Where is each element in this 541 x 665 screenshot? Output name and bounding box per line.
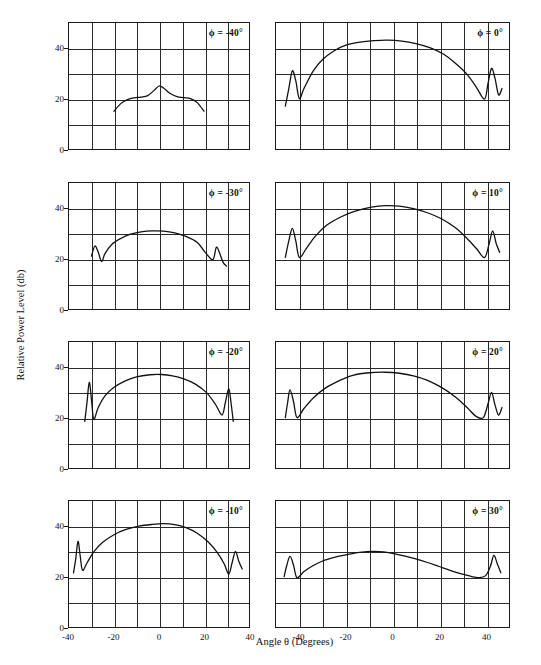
y-axis-label: Relative Power Level (db) bbox=[15, 265, 26, 385]
y-axis-tick-mark bbox=[64, 628, 68, 629]
y-axis-tick-mark bbox=[64, 259, 68, 260]
plot-area: ϕ = -20° bbox=[68, 341, 250, 469]
y-axis-tick-label: 0 bbox=[46, 464, 64, 474]
plot-area: ϕ = 30° bbox=[275, 500, 510, 628]
radiation-pattern-figure: Relative Power Level (db) Angle θ (Degre… bbox=[0, 0, 541, 665]
pattern-curve bbox=[276, 501, 509, 627]
y-axis-tick-label: 20 bbox=[46, 413, 64, 423]
y-axis-tick-label: 20 bbox=[46, 254, 64, 264]
x-axis-tick-label: 40 bbox=[246, 632, 255, 642]
y-axis-tick-mark bbox=[64, 469, 68, 470]
y-axis-tick-label: 40 bbox=[46, 362, 64, 372]
plot-area: ϕ = -30° bbox=[68, 182, 250, 310]
pattern-panel: ϕ = 10° bbox=[275, 182, 510, 310]
y-axis-tick-mark bbox=[64, 310, 68, 311]
x-axis-label: Angle θ (Degrees) bbox=[24, 636, 541, 647]
plot-area: ϕ = 0° bbox=[275, 22, 510, 150]
y-axis-tick-mark bbox=[64, 526, 68, 527]
pattern-curve bbox=[276, 342, 509, 468]
panel-label-phi: ϕ = 0° bbox=[477, 28, 503, 38]
panel-label-phi: ϕ = 30° bbox=[472, 506, 503, 516]
pattern-panel: ϕ = -30°02040 bbox=[68, 182, 250, 310]
pattern-panel: ϕ = -20°02040 bbox=[68, 341, 250, 469]
y-axis-tick-label: 40 bbox=[46, 203, 64, 213]
y-axis-tick-mark bbox=[64, 99, 68, 100]
y-axis-tick-mark bbox=[64, 577, 68, 578]
pattern-curve bbox=[69, 342, 249, 468]
x-axis-tick-label: 40 bbox=[482, 632, 491, 642]
pattern-curve bbox=[276, 23, 509, 149]
y-axis-tick-label: 40 bbox=[46, 521, 64, 531]
y-axis-tick-label: 0 bbox=[46, 145, 64, 155]
panel-label-phi: ϕ = -30° bbox=[209, 188, 243, 198]
plot-area: ϕ = 20° bbox=[275, 341, 510, 469]
plot-area: ϕ = -40° bbox=[68, 22, 250, 150]
x-axis-tick-label: 0 bbox=[157, 632, 162, 642]
pattern-panel: ϕ = 20° bbox=[275, 341, 510, 469]
pattern-panel: ϕ = 30°-40-2002040 bbox=[275, 500, 510, 628]
y-axis-tick-mark bbox=[64, 208, 68, 209]
y-axis-tick-mark bbox=[64, 150, 68, 151]
y-axis-tick-label: 20 bbox=[46, 94, 64, 104]
pattern-curve bbox=[69, 183, 249, 309]
x-axis-tick-label: 20 bbox=[435, 632, 444, 642]
panel-label-phi: ϕ = -10° bbox=[209, 506, 243, 516]
panel-label-phi: ϕ = 20° bbox=[472, 347, 503, 357]
y-axis-tick-label: 20 bbox=[46, 572, 64, 582]
pattern-curve bbox=[276, 183, 509, 309]
pattern-panel: ϕ = -10°02040-40-2002040 bbox=[68, 500, 250, 628]
pattern-curve bbox=[69, 501, 249, 627]
x-axis-tick-label: -40 bbox=[293, 632, 305, 642]
panel-label-phi: ϕ = 10° bbox=[472, 188, 503, 198]
y-axis-tick-mark bbox=[64, 418, 68, 419]
x-axis-tick-label: -20 bbox=[340, 632, 352, 642]
y-axis-tick-label: 0 bbox=[46, 305, 64, 315]
pattern-panel: ϕ = 0° bbox=[275, 22, 510, 150]
y-axis-tick-label: 40 bbox=[46, 43, 64, 53]
pattern-curve bbox=[69, 23, 249, 149]
y-axis-tick-mark bbox=[64, 48, 68, 49]
plot-area: ϕ = 10° bbox=[275, 182, 510, 310]
pattern-panel: ϕ = -40°02040 bbox=[68, 22, 250, 150]
panel-label-phi: ϕ = -20° bbox=[209, 347, 243, 357]
plot-area: ϕ = -10° bbox=[68, 500, 250, 628]
x-axis-tick-label: 0 bbox=[390, 632, 395, 642]
panel-label-phi: ϕ = -40° bbox=[209, 28, 243, 38]
y-axis-tick-mark bbox=[64, 367, 68, 368]
x-axis-tick-label: -40 bbox=[62, 632, 74, 642]
x-axis-tick-label: 20 bbox=[200, 632, 209, 642]
x-axis-tick-label: -20 bbox=[108, 632, 120, 642]
